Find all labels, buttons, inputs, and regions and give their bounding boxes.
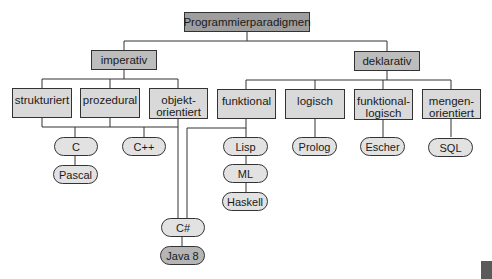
language-escher: Escher bbox=[360, 137, 405, 156]
language-cpp: C++ bbox=[122, 137, 166, 156]
corner-mark bbox=[481, 261, 492, 279]
language-prolog: Prolog bbox=[292, 137, 337, 156]
language-haskell: Haskell bbox=[222, 192, 268, 211]
paradigm-funktional-logisch: funktional- logisch bbox=[354, 89, 413, 120]
language-sql: SQL bbox=[428, 138, 473, 157]
language-java8: Java 8 bbox=[160, 246, 205, 265]
paradigm-objektorientiert: objekt- orientiert bbox=[149, 88, 208, 119]
language-lisp: Lisp bbox=[223, 137, 268, 156]
category-imperativ: imperativ bbox=[91, 50, 157, 70]
root-node: Programmierparadigmen bbox=[184, 12, 310, 32]
language-pascal: Pascal bbox=[53, 165, 98, 184]
language-ml: ML bbox=[223, 164, 268, 183]
paradigm-logisch: logisch bbox=[285, 89, 345, 119]
category-deklarativ: deklarativ bbox=[354, 51, 420, 71]
paradigm-strukturiert: strukturiert bbox=[12, 88, 72, 118]
language-c: C bbox=[54, 137, 98, 156]
paradigm-prozedural: prozedural bbox=[80, 88, 140, 118]
paradigm-funktional: funktional bbox=[217, 89, 276, 119]
language-csharp: C# bbox=[161, 218, 205, 237]
paradigm-mengenorientiert: mengen- orientiert bbox=[422, 89, 481, 119]
